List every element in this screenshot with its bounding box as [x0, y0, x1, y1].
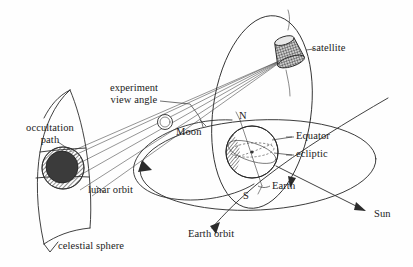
label-sun: Sun: [374, 208, 391, 220]
occultation-geometry-figure: satellite experiment view angle Moon occ…: [0, 0, 413, 267]
label-north-pole: N: [239, 110, 247, 122]
label-earth: Earth: [272, 180, 295, 192]
label-ecliptic: ecliptic: [296, 148, 328, 160]
occultation-disk-group: [42, 147, 84, 189]
label-experiment-view-angle-line1: experiment: [96, 82, 172, 94]
figure-caption-faint: [18, 256, 308, 265]
label-occultation-path-line1: occultation: [14, 122, 86, 134]
label-south-pole: S: [243, 190, 249, 202]
satellite-group: [270, 10, 306, 96]
label-experiment-view-angle-line2: view angle: [96, 94, 172, 106]
moon-group: [158, 115, 173, 130]
label-occultation-path: occultation path: [14, 122, 86, 146]
label-earth-orbit: Earth orbit: [188, 228, 234, 240]
label-experiment-view-angle: experiment view angle: [96, 82, 172, 106]
label-occultation-path-line2: path: [14, 134, 86, 146]
label-celestial-sphere: celestial sphere: [58, 240, 124, 252]
earth-globe-group: [218, 112, 279, 194]
label-moon: Moon: [176, 126, 202, 138]
label-lunar-orbit: lunar orbit: [88, 184, 133, 196]
label-equator: Equator: [296, 130, 330, 142]
satellite-orbit-ellipse: [200, 9, 324, 215]
label-satellite: satellite: [312, 42, 346, 54]
